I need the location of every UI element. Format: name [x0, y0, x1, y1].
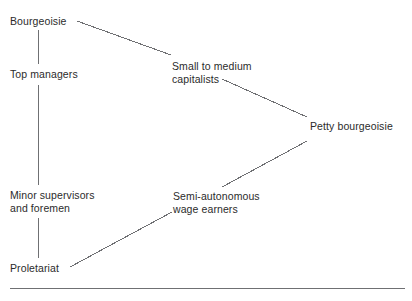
edge-petty-bourgeoisie-to-semi-autonomous-wage-earners	[222, 141, 307, 187]
node-proletariat: Proletariat	[10, 262, 59, 275]
node-small-to-medium-capitalists: Small to medium capitalists	[172, 60, 252, 86]
node-bourgeoisie: Bourgeoisie	[10, 15, 67, 28]
node-semi-autonomous-wage-earners: Semi-autonomous wage earners	[173, 190, 260, 216]
diagram-canvas: Bourgeoisie Top managers Small to medium…	[0, 0, 412, 301]
node-petty-bourgeoisie: Petty bourgeoisie	[310, 120, 393, 133]
diagram-edges	[0, 0, 412, 301]
node-top-managers: Top managers	[10, 68, 78, 81]
edge-bourgeoisie-to-small-to-medium-capitalists	[77, 21, 171, 55]
node-minor-supervisors-and-foremen: Minor supervisors and foremen	[10, 189, 95, 215]
edge-proletariat-to-semi-autonomous-wage-earners	[70, 212, 172, 267]
